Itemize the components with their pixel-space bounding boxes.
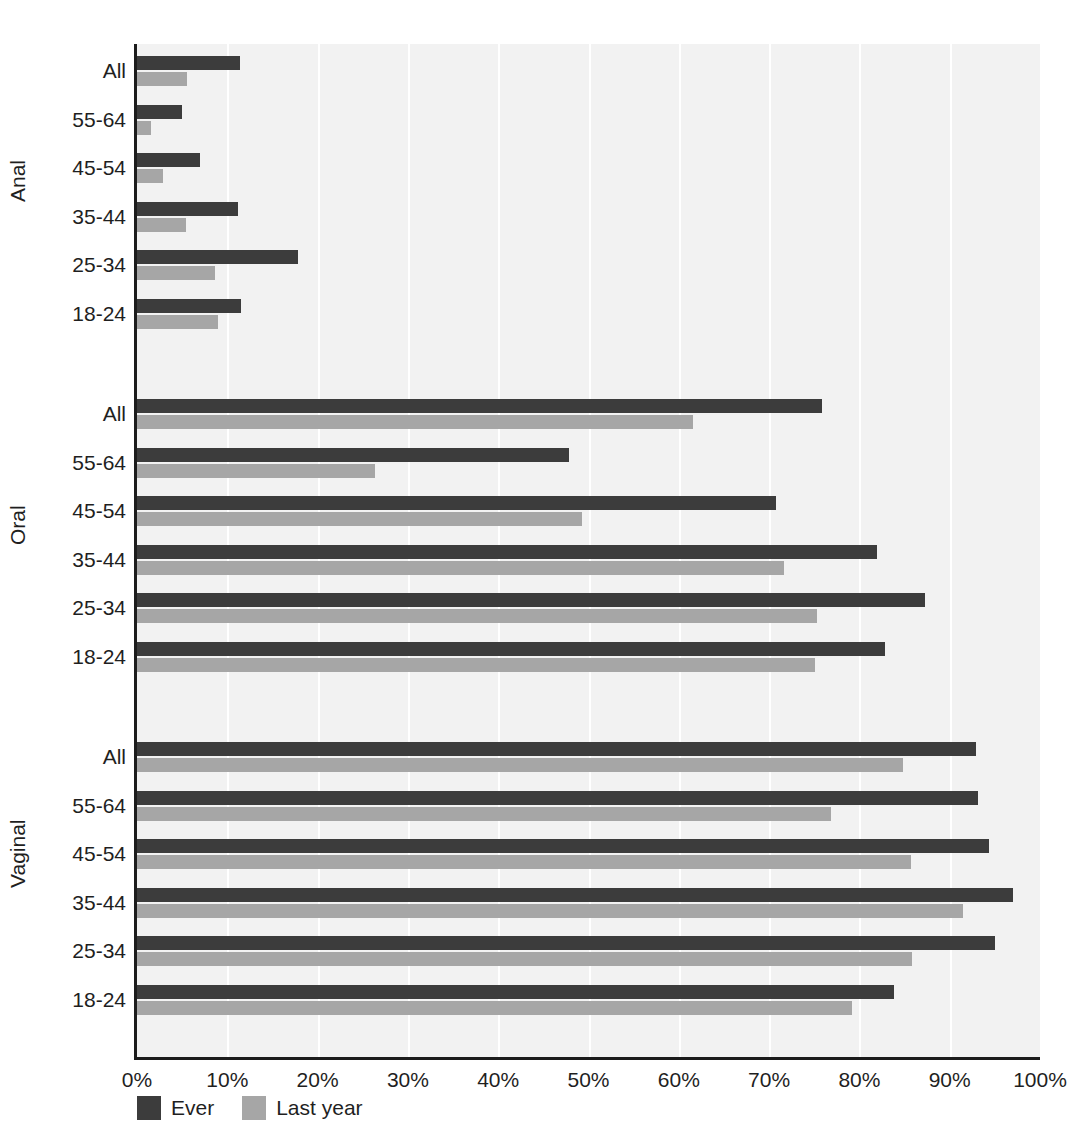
bar-last-year — [137, 315, 218, 329]
category-label-18-24: 18-24 — [8, 302, 126, 326]
x-tick-label: 20% — [297, 1068, 339, 1092]
category-label-55-64: 55-64 — [8, 794, 126, 818]
group-label-oral: Oral — [6, 517, 30, 545]
x-axis-line — [134, 1057, 1040, 1060]
bar-ever — [137, 791, 978, 805]
x-tick-label: 10% — [206, 1068, 248, 1092]
grouped-bar-chart: All55-6445-5435-4425-3418-24All55-6445-5… — [0, 0, 1089, 1146]
category-label-18-24: 18-24 — [8, 988, 126, 1012]
category-label-35-44: 35-44 — [8, 205, 126, 229]
x-tick-label: 90% — [929, 1068, 971, 1092]
bar-last-year — [137, 72, 187, 86]
bar-last-year — [137, 855, 911, 869]
bar-ever — [137, 742, 976, 756]
bar-last-year — [137, 512, 582, 526]
category-label-18-24: 18-24 — [8, 645, 126, 669]
x-tick-label: 60% — [658, 1068, 700, 1092]
bar-last-year — [137, 658, 815, 672]
bar-last-year — [137, 561, 784, 575]
bar-last-year — [137, 169, 163, 183]
legend-swatch-icon — [137, 1096, 161, 1120]
bar-last-year — [137, 807, 831, 821]
category-label-55-64: 55-64 — [8, 108, 126, 132]
bar-last-year — [137, 952, 912, 966]
x-tick-label: 0% — [122, 1068, 152, 1092]
bar-ever — [137, 56, 240, 70]
bar-last-year — [137, 121, 151, 135]
legend-label: Last year — [276, 1096, 362, 1120]
bar-ever — [137, 250, 298, 264]
bar-ever — [137, 888, 1013, 902]
legend-item-last-year[interactable]: Last year — [242, 1096, 362, 1120]
x-tick-label: 70% — [748, 1068, 790, 1092]
bar-ever — [137, 202, 238, 216]
bar-ever — [137, 839, 989, 853]
legend-item-ever[interactable]: Ever — [137, 1096, 214, 1120]
gridline — [1040, 44, 1042, 1059]
category-label-35-44: 35-44 — [8, 891, 126, 915]
group-label-vaginal: Vaginal — [6, 860, 30, 888]
bar-ever — [137, 642, 885, 656]
bar-last-year — [137, 758, 903, 772]
category-label-all: All — [8, 59, 126, 83]
chart-legend: EverLast year — [137, 1096, 363, 1120]
category-label-25-34: 25-34 — [8, 253, 126, 277]
bar-last-year — [137, 415, 693, 429]
bar-ever — [137, 593, 925, 607]
bar-last-year — [137, 218, 186, 232]
bar-ever — [137, 936, 995, 950]
bar-last-year — [137, 464, 375, 478]
y-axis-line — [134, 44, 137, 1059]
bar-last-year — [137, 266, 215, 280]
x-tick-label: 50% — [567, 1068, 609, 1092]
bar-ever — [137, 105, 182, 119]
category-label-55-64: 55-64 — [8, 451, 126, 475]
x-tick-label: 30% — [387, 1068, 429, 1092]
bar-ever — [137, 399, 822, 413]
category-label-25-34: 25-34 — [8, 596, 126, 620]
plot-area — [137, 44, 1040, 1059]
bar-ever — [137, 153, 200, 167]
legend-label: Ever — [171, 1096, 214, 1120]
group-label-anal: Anal — [6, 174, 30, 202]
category-label-all: All — [8, 745, 126, 769]
x-tick-label: 40% — [477, 1068, 519, 1092]
bar-ever — [137, 299, 241, 313]
category-label-25-34: 25-34 — [8, 939, 126, 963]
bar-ever — [137, 545, 877, 559]
legend-swatch-icon — [242, 1096, 266, 1120]
bar-ever — [137, 496, 776, 510]
bar-ever — [137, 448, 569, 462]
category-label-all: All — [8, 402, 126, 426]
bar-last-year — [137, 609, 817, 623]
bar-last-year — [137, 1001, 852, 1015]
x-tick-label: 80% — [838, 1068, 880, 1092]
bar-ever — [137, 985, 894, 999]
x-tick-label: 100% — [1013, 1068, 1067, 1092]
category-label-35-44: 35-44 — [8, 548, 126, 572]
bar-last-year — [137, 904, 963, 918]
